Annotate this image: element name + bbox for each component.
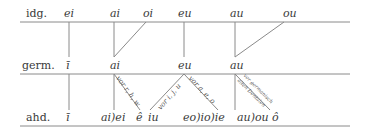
idg-vowel-oi: oi (143, 8, 153, 19)
row-label-ahd: ahd. (26, 112, 50, 123)
ou-to-au-line (235, 22, 284, 57)
sound-shift-diagram: idg. ei ai oi eu au ou germ. ī ai eu au … (0, 0, 368, 134)
ahd-vowel-aiei: ai)ei (101, 112, 125, 123)
germ-vowel-eu: eu (178, 60, 192, 71)
ahd-vowel-e: ê (136, 112, 143, 123)
row-label-germ: germ. (22, 60, 55, 71)
ahd-vowel-i: ī (66, 112, 70, 123)
idg-vowel-ei: ei (64, 8, 74, 19)
idg-vowel-au: au (230, 8, 244, 19)
germ-vowel-ai: ai (110, 60, 120, 71)
idg-vowel-ai: ai (110, 8, 120, 19)
ahd-vowel-o: ô (272, 112, 279, 123)
oi-to-ai-line (114, 22, 146, 57)
idg-vowel-eu: eu (178, 8, 192, 19)
germ-vowel-au: au (230, 60, 244, 71)
row-label-idg: idg. (26, 8, 47, 19)
ahd-vowel-iu: iu (148, 112, 159, 123)
idg-vowel-ou: ou (283, 8, 297, 19)
ahd-vowel-auou: au)ou (237, 112, 269, 123)
germ-vowel-i: ī (66, 60, 70, 71)
ahd-vowel-eoioie: eo)io)ie (183, 112, 225, 123)
